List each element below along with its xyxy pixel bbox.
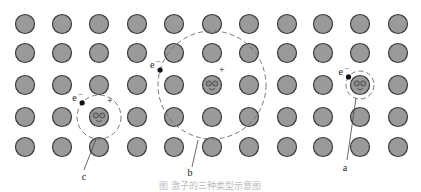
- lattice-ion: [240, 138, 259, 157]
- lattice-ion: [16, 108, 35, 127]
- lattice-ion: [314, 138, 333, 157]
- leader-line: [192, 140, 198, 167]
- lattice-ion: [165, 108, 184, 127]
- lattice-ion: [128, 108, 147, 127]
- electron-label: e: [339, 66, 344, 77]
- lattice-ion: [351, 15, 370, 34]
- lattice-ion: [16, 138, 35, 157]
- electron-dot: [80, 100, 85, 105]
- lattice-ion: [278, 108, 297, 127]
- electron-charge: −: [345, 64, 350, 73]
- eye-left-icon: [93, 113, 98, 118]
- lattice-ion: [90, 15, 109, 34]
- lattice-ion: [203, 15, 222, 34]
- lattice-ion: [351, 44, 370, 63]
- lattice-ion: [165, 138, 184, 157]
- lattice-ion: [90, 76, 109, 95]
- lattice-ion: [90, 138, 109, 157]
- lattice-ion: [53, 108, 72, 127]
- lattice-ion: [278, 44, 297, 63]
- hole-charge: +: [219, 64, 225, 75]
- eye-left-icon: [354, 81, 359, 86]
- ion-circle: [203, 76, 222, 95]
- figure-caption: 图 激子的三种类型示意图: [159, 180, 260, 191]
- lattice-ion: [165, 15, 184, 34]
- lattice-ion: [389, 108, 408, 127]
- lattice-ion: [128, 76, 147, 95]
- lattice-ion: [53, 138, 72, 157]
- orbit-c: e−+c: [72, 90, 121, 182]
- lattice-ion: [278, 15, 297, 34]
- lattice-ion: [314, 15, 333, 34]
- lattice-ion: [203, 44, 222, 63]
- lattice-ion: [314, 76, 333, 95]
- lattice-ion: [16, 76, 35, 95]
- orbit-label-a: a: [343, 162, 348, 173]
- lattice-ion: [240, 76, 259, 95]
- lattice-ion: [90, 44, 109, 63]
- electron-label: e: [150, 59, 155, 70]
- orbit-label-c: c: [82, 171, 87, 182]
- lattice-ion: [314, 108, 333, 127]
- electron-dot: [346, 74, 351, 79]
- lattice-ion: [240, 15, 259, 34]
- lattice-ion: [128, 15, 147, 34]
- lattice-ion: [128, 44, 147, 63]
- lattice-ion: [389, 44, 408, 63]
- electron-label: e: [72, 92, 77, 103]
- electron-dot: [157, 68, 162, 73]
- lattice-ion: [389, 15, 408, 34]
- eye-right-icon: [213, 81, 218, 86]
- lattice-ion: [16, 44, 35, 63]
- eye-right-icon: [100, 113, 105, 118]
- lattice-ion: [278, 138, 297, 157]
- eye-left-icon: [206, 81, 211, 86]
- orbit-label-b: b: [188, 167, 193, 178]
- lattice-ion: [203, 108, 222, 127]
- lattice-ion: [351, 138, 370, 157]
- lattice-ion: [53, 76, 72, 95]
- lattice-ion: [278, 76, 297, 95]
- exciton-lattice-diagram: e−+ce−+be−a 图 激子的三种类型示意图: [0, 0, 421, 192]
- lattice-ion: [53, 44, 72, 63]
- hole-ion: [203, 76, 222, 95]
- ion-circle: [351, 76, 370, 95]
- eye-right-icon: [361, 81, 366, 86]
- lattice-ion: [128, 138, 147, 157]
- electron-charge: −: [78, 90, 83, 99]
- lattice-ion: [16, 15, 35, 34]
- ion-lattice: [16, 15, 408, 157]
- lattice-ion: [53, 15, 72, 34]
- hole-charge: +: [107, 95, 113, 106]
- lattice-ion: [314, 44, 333, 63]
- ion-circle: [90, 108, 109, 127]
- electron-charge: −: [156, 57, 161, 66]
- lattice-ion: [165, 76, 184, 95]
- hole-ion: [90, 108, 109, 127]
- lattice-ion: [389, 138, 408, 157]
- lattice-ion: [389, 76, 408, 95]
- hole-ion: [351, 76, 370, 95]
- lattice-ion: [203, 138, 222, 157]
